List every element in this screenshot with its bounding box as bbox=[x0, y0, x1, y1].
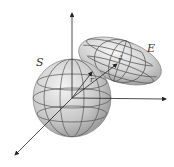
diagram-canvas: S E r r̃ bbox=[0, 0, 174, 167]
diagram-svg: S E r r̃ bbox=[0, 0, 174, 167]
label-sphere: S bbox=[36, 56, 44, 69]
label-ellipsoid: E bbox=[146, 42, 155, 55]
